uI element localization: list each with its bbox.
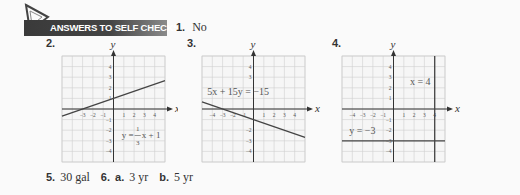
y-tick-label: 3 <box>249 74 252 80</box>
y-tick-label: 3 <box>109 74 112 80</box>
y-tick-label: 4 <box>249 64 252 70</box>
answer-1-number: 1. <box>176 21 185 33</box>
y-tick-label: −2 <box>386 127 392 133</box>
x-axis-arrow-icon <box>167 107 173 112</box>
x-tick-label: 4 <box>153 112 156 118</box>
x-tick-label: 3 <box>423 112 426 118</box>
x-axis-arrow-icon <box>307 107 313 112</box>
fraction-numerator: 1 <box>136 125 140 133</box>
y-tick-label: −3 <box>106 138 112 144</box>
answer-6b-text: 5 yr <box>174 170 193 184</box>
y-tick-label: −1 <box>386 117 392 123</box>
x-axis-label: x <box>454 102 460 114</box>
answer-1-text: No <box>192 20 207 34</box>
banner-title: ANSWERS TO SELF CHECKS <box>50 21 180 35</box>
x-tick-label: −3 <box>360 112 366 118</box>
graph-2: xy−3−2−112344321−1−2−3−4y =13x + 1 <box>58 40 178 168</box>
y-axis-arrow-icon <box>391 50 396 56</box>
x-tick-label: −4 <box>209 112 215 118</box>
y-axis-label: y <box>390 40 396 50</box>
x-axis-label: x <box>314 102 320 114</box>
x-tick-label: −4 <box>349 112 355 118</box>
equation-text: y = <box>122 130 134 140</box>
x-tick-label: 1 <box>402 112 405 118</box>
x-tick-label: 1 <box>262 112 265 118</box>
equation-label: 5x + 15y = −15 <box>207 86 269 97</box>
graph-3: xy−4−3−2−1123443−2−3−45x + 15y = −15 <box>198 40 323 168</box>
equation-text: x + 1 <box>142 130 161 140</box>
y-axis-arrow-icon <box>111 50 116 56</box>
x-axis-arrow-icon <box>447 107 453 112</box>
x-tick-label: −2 <box>370 112 376 118</box>
x-tick-label: −3 <box>220 112 226 118</box>
x-tick-label: −2 <box>90 112 96 118</box>
y-axis-label: y <box>250 40 256 50</box>
y-tick-label: 4 <box>389 64 392 70</box>
y-tick-label: 2 <box>389 85 392 91</box>
answer-5-number: 5. <box>46 171 55 183</box>
graph-4: xy−4−3−2−112344321−1−2−3−4x = 4y = −3 <box>338 40 463 168</box>
answer-2-label: 2. <box>46 37 55 49</box>
x-tick-label: 3 <box>283 112 286 118</box>
answer-1: 1. No <box>176 20 207 35</box>
x-tick-label: −3 <box>80 112 86 118</box>
fraction-denominator: 3 <box>136 139 140 147</box>
bottom-answers: 5. 30 gal 6. a. 3 yr b. 5 yr <box>46 170 195 185</box>
x-tick-label: 3 <box>143 112 146 118</box>
answer-6a-label: a. <box>115 171 124 183</box>
y-tick-label: 3 <box>389 74 392 80</box>
x-tick-label: 4 <box>293 112 296 118</box>
y-axis-arrow-icon <box>251 50 256 56</box>
x-tick-label: 2 <box>133 112 136 118</box>
x-tick-label: 2 <box>273 112 276 118</box>
answer-6-number: 6. <box>101 171 110 183</box>
answer-6b-label: b. <box>159 171 169 183</box>
y-tick-label: 4 <box>109 64 112 70</box>
answer-3-label: 3. <box>187 37 196 49</box>
y-tick-label: 1 <box>389 95 392 101</box>
equation-label: x = 4 <box>410 76 431 87</box>
y-tick-label: −4 <box>386 148 392 154</box>
x-tick-label: 2 <box>413 112 416 118</box>
equation-label: y = −3 <box>349 125 375 136</box>
answer-5-text: 30 gal <box>60 170 90 184</box>
y-tick-label: −1 <box>106 117 112 123</box>
y-tick-label: 2 <box>109 85 112 91</box>
x-axis-label: x <box>174 102 178 114</box>
y-axis-label: y <box>110 40 116 50</box>
y-tick-label: −2 <box>246 127 252 133</box>
y-tick-label: −3 <box>246 138 252 144</box>
answer-6a-text: 3 yr <box>129 170 148 184</box>
y-tick-label: −4 <box>246 148 252 154</box>
y-tick-label: −2 <box>106 127 112 133</box>
x-tick-label: 1 <box>122 112 125 118</box>
y-tick-label: −4 <box>106 148 112 154</box>
